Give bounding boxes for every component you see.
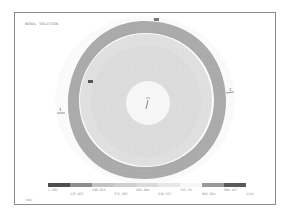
legend-segment — [92, 183, 114, 187]
contour-plot: 1 1 — [15, 13, 277, 206]
figure-caption — [110, 209, 180, 212]
legend-label: 866.824 — [202, 192, 215, 196]
legend-label: 619.557 — [158, 192, 171, 196]
legend-segment — [158, 183, 180, 187]
plot-window: NODAL SOLUTION — [14, 12, 276, 205]
legend-segment — [48, 183, 70, 187]
legend-segment — [180, 183, 202, 187]
legend-color-bar — [48, 183, 246, 187]
legend-segment — [202, 183, 224, 187]
legend-segment — [224, 183, 246, 187]
legend-label: 1114 — [246, 192, 254, 196]
center-region — [126, 81, 170, 125]
legend-segment — [70, 183, 92, 187]
legend-label: 495.904 — [136, 188, 149, 192]
legend-label: 990.457 — [224, 188, 237, 192]
legend-label: 125.025 — [70, 192, 83, 196]
legend-label: 743.19 — [180, 188, 192, 192]
units-label: (mm) — [25, 198, 33, 202]
legend-label: 1.281 — [48, 188, 58, 192]
legend-segment — [114, 183, 136, 187]
legend-label: 372.295 — [114, 192, 127, 196]
legend-label: 248.834 — [92, 188, 105, 192]
legend-segment — [136, 183, 158, 187]
